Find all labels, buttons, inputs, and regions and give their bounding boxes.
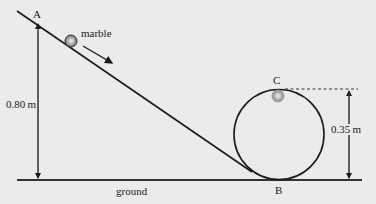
label-ground: ground [116,186,147,197]
label-height-a: 0.80 m [5,99,37,110]
label-point-c: C [273,75,280,86]
motion-arrow [83,46,112,63]
diagram-svg [0,0,376,204]
marble-on-ramp [65,35,77,47]
physics-diagram: A marble 0.80 m C 0.35 m B ground [0,0,376,204]
loop-circle [234,90,324,180]
label-height-c: 0.35 m [330,124,362,135]
ramp-line [17,11,252,172]
label-marble: marble [81,28,112,39]
label-point-a: A [33,9,41,20]
marble-at-c [272,90,284,102]
label-point-b: B [275,185,282,196]
